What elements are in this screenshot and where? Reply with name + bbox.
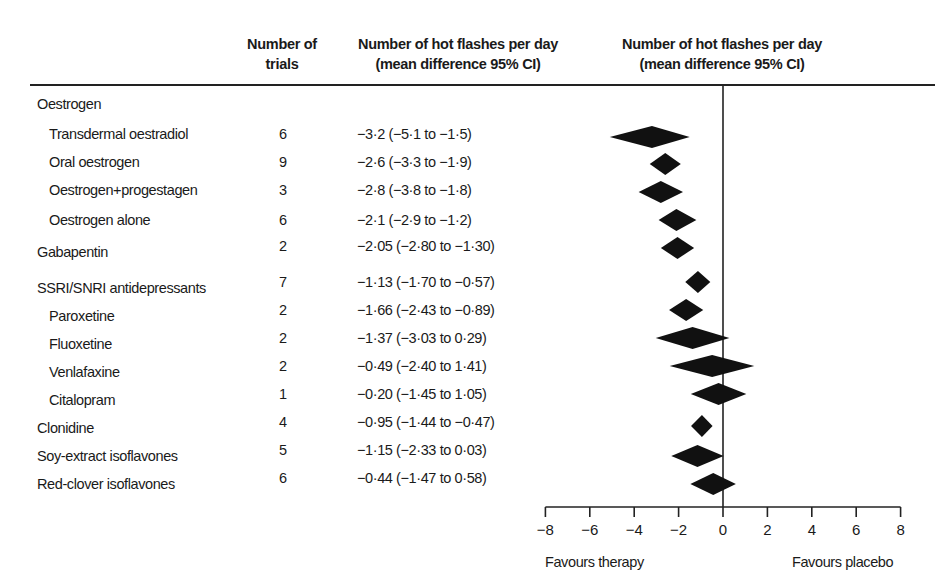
ci-diamond-marker: [690, 473, 736, 495]
ci-diamond-marker: [670, 355, 755, 377]
x-axis-tick-label: −4: [626, 521, 643, 538]
favours-therapy-label: Favours therapy: [545, 554, 644, 570]
ci-diamond-marker: [671, 445, 723, 467]
favours-placebo-label: Favours placebo: [792, 554, 893, 570]
ci-diamond-marker: [650, 153, 681, 175]
x-axis-tick-label: 0: [719, 521, 727, 538]
ci-diamond-marker: [669, 299, 703, 321]
ci-diamond-marker: [685, 271, 710, 293]
x-axis-tick-label: 2: [763, 521, 771, 538]
ci-diamond-marker: [656, 327, 730, 349]
x-axis-tick-label: 6: [852, 521, 860, 538]
ci-diamond-marker: [610, 126, 690, 148]
x-axis-tick-label: −2: [670, 521, 687, 538]
x-axis-tick-label: −8: [537, 521, 554, 538]
ci-diamond-marker: [661, 237, 694, 259]
ci-diamond-marker: [691, 415, 713, 437]
x-axis-tick-label: 8: [896, 521, 904, 538]
x-axis-tick-label: −6: [581, 521, 598, 538]
ci-diamond-marker: [639, 181, 683, 203]
ci-diamond-marker: [691, 383, 747, 405]
ci-diamond-marker: [659, 209, 697, 231]
x-axis-tick-label: 4: [808, 521, 816, 538]
